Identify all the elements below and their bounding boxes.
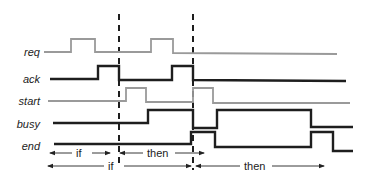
interval-label: if [108, 160, 114, 172]
signal-busy-waveform [53, 110, 353, 128]
interval-arrows: ifthenifthen [48, 147, 324, 172]
interval-then-row2: then [196, 160, 324, 172]
signal-busy-label: busy [17, 118, 42, 130]
signal-start-label: start [19, 95, 41, 107]
signal-labels: reqackstartbusyend [17, 46, 42, 152]
signal-ack-waveform [50, 66, 346, 81]
signal-req-waveform [44, 39, 337, 54]
interval-label: if [76, 147, 82, 159]
signal-start-waveform [48, 88, 350, 103]
interval-then-row1: then [120, 147, 204, 159]
timing-diagram: reqackstartbusyend ifthenifthen [0, 0, 371, 183]
signal-req-label: req [24, 46, 41, 58]
signal-waveforms [44, 39, 353, 151]
interval-label: then [147, 147, 168, 159]
signal-ack-label: ack [23, 73, 41, 85]
signal-end-label: end [22, 140, 41, 152]
interval-label: then [244, 160, 265, 172]
signal-end-waveform [54, 132, 353, 151]
timing-diagram-canvas: reqackstartbusyend ifthenifthen [0, 0, 371, 183]
interval-if-row1: if [50, 147, 110, 159]
